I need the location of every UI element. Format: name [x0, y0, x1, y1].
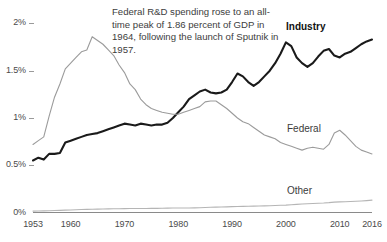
x-tick-label: 1960: [51, 219, 91, 229]
series-line-industry: [33, 40, 372, 161]
series-label-industry: Industry: [286, 21, 325, 32]
y-tick-mark: [29, 71, 34, 72]
y-tick-label: 1.5%: [0, 65, 26, 75]
chart-annotation-note: Federal R&D spending rose to an all-time…: [112, 6, 282, 56]
x-tick-label: 1953: [13, 219, 53, 229]
y-tick-mark: [29, 165, 34, 166]
y-tick-label: 0%: [0, 207, 26, 217]
x-tick-label: 1970: [104, 219, 144, 229]
series-layer: [33, 37, 372, 211]
x-tick-label: 1990: [212, 219, 252, 229]
y-tick-mark: [29, 23, 34, 24]
series-label-federal: Federal: [287, 123, 321, 134]
series-line-other: [33, 200, 372, 211]
y-tick-label: 2%: [0, 17, 26, 27]
y-tick-mark: [29, 118, 34, 119]
x-tick-label: 2016: [352, 219, 387, 229]
y-tick-label: 1%: [0, 112, 26, 122]
series-label-other: Other: [287, 185, 312, 196]
x-tick-label: 1980: [158, 219, 198, 229]
y-tick-label: 0.5%: [0, 159, 26, 169]
x-tick-label: 2000: [266, 219, 306, 229]
